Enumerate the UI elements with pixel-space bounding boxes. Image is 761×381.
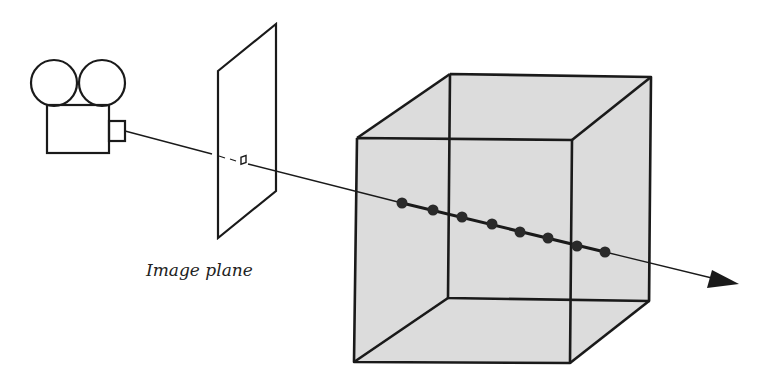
sample-dot — [487, 219, 498, 230]
arrowhead-icon — [707, 270, 739, 288]
sample-dot — [543, 233, 554, 244]
image-plane-label: Image plane — [146, 260, 253, 280]
sample-dot — [397, 198, 408, 209]
sample-dot — [515, 227, 526, 238]
image-plane — [218, 24, 276, 238]
sample-dot — [457, 212, 468, 223]
volume-cube — [354, 74, 651, 363]
sample-dot — [600, 247, 611, 258]
camera-icon — [31, 60, 125, 153]
sample-dot — [572, 241, 583, 252]
sample-dot — [428, 205, 439, 216]
diagram-canvas — [0, 0, 761, 381]
